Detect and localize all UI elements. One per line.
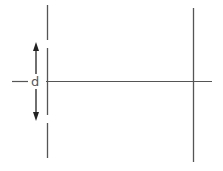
arrow-up-icon [33,42,39,74]
arrow-down-icon [33,89,39,121]
double-slit-diagram: d [0,0,223,171]
slit-separation-label: d [31,74,39,89]
